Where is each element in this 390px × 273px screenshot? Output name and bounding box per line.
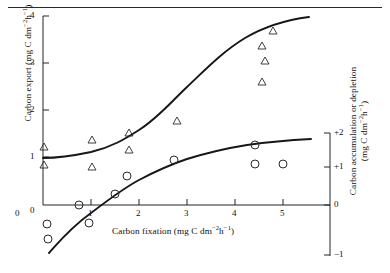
y-axis-right-label-line1: Carbon accumulation or depletion — [348, 67, 358, 195]
data-point-circle — [279, 160, 287, 168]
ytick-right-minus1: −1 — [334, 249, 344, 259]
data-point-triangle — [40, 161, 48, 168]
figure-container: 4 3 2 1 0 0 1 2 3 4 5 +2 +1 0 −1 Carbon … — [0, 0, 390, 273]
y-ticks-right — [324, 133, 330, 255]
xtick-1: 1 — [88, 208, 93, 218]
x-axis-label: Carbon fixation (mg C dm−2h−1) — [112, 226, 234, 236]
data-point-circle — [43, 220, 51, 228]
xtick-3: 3 — [184, 208, 189, 218]
y-axis-right-label: Carbon accumulation or depletion (mg C d… — [348, 56, 370, 206]
data-point-triangle — [261, 57, 269, 64]
data-point-triangle — [173, 117, 181, 124]
ytick-left-0: 0 — [30, 205, 35, 215]
xtick-0: 0 — [15, 208, 20, 218]
data-point-circle — [123, 172, 131, 180]
data-point-triangle — [269, 27, 277, 34]
y-ticks-left — [43, 16, 49, 157]
y-axis-left-label: Carbon export (mg C dm−2h−1) — [23, 0, 33, 153]
x-ticks — [91, 199, 283, 205]
data-point-triangle — [88, 163, 96, 170]
data-point-triangle — [88, 136, 96, 143]
ytick-right-0: 0 — [334, 199, 339, 209]
data-point-circle — [85, 219, 93, 227]
xtick-5: 5 — [280, 208, 285, 218]
data-point-circle — [251, 160, 259, 168]
xtick-2: 2 — [136, 208, 141, 218]
series-carbon-export-markers — [40, 27, 277, 170]
y-axis-right-label-line2: (mg C dm−2h−1) — [359, 101, 369, 161]
ytick-right-plus2: +2 — [334, 127, 344, 137]
data-point-circle — [44, 235, 52, 243]
data-point-triangle — [40, 143, 48, 150]
xtick-4: 4 — [232, 208, 237, 218]
curve-carbon-export — [43, 17, 309, 158]
data-point-triangle — [125, 146, 133, 153]
data-point-triangle — [258, 42, 266, 49]
data-point-triangle — [258, 78, 266, 85]
ytick-right-plus1: +1 — [334, 161, 344, 171]
